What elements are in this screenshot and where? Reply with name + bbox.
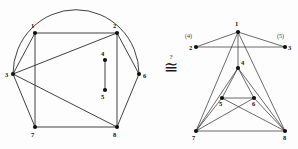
node-label-2: 2 [189,44,192,51]
alt-label-for-node-3: (5) [277,33,284,40]
congruent-symbol: ≅ [158,59,184,76]
edge-6-7 [196,98,254,131]
node-2[interactable] [194,45,198,49]
node-label-5: 5 [219,100,223,107]
node-label-3: 3 [288,44,292,51]
node-4[interactable] [236,66,240,70]
edge-4-5 [222,68,238,98]
node-label-4: 4 [241,59,245,66]
figure-canvas: 12345678 12345678(4)(5) ? ≅ [0,0,298,149]
edge-4-6 [238,68,254,98]
node-label-8: 8 [283,134,287,141]
right-graph-figure: 12345678(4)(5) [0,0,298,149]
edge-4-7 [196,68,238,131]
node-1[interactable] [236,30,240,34]
node-label-7: 7 [192,134,196,141]
edge-4-8 [238,68,285,131]
node-3[interactable] [283,45,287,49]
node-label-6: 6 [252,100,256,107]
congruence-relation: ? ≅ [158,54,184,82]
node-7[interactable] [194,129,198,133]
alt-label-for-node-2: (4) [185,33,192,40]
node-label-1: 1 [235,20,238,27]
node-8[interactable] [283,129,287,133]
edge-6-8 [254,98,285,131]
edge-1-2 [196,32,238,47]
